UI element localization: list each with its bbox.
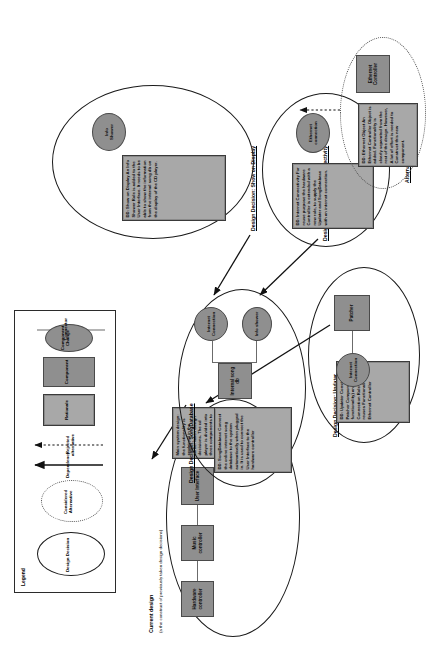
- component-hardware-controller[interactable]: Hardware controller: [181, 581, 214, 617]
- change-info-shower[interactable]: Info Shower: [92, 113, 126, 151]
- change-internet-connection-updater[interactable]: Internet Connection: [336, 353, 370, 387]
- connector-songdb-infoshower: [256, 341, 257, 363]
- legend-title: Legend: [20, 568, 26, 586]
- legend-rationale-label: Rationale: [64, 394, 69, 426]
- connector-music-ui: [197, 505, 198, 525]
- rationale-ethernet-object[interactable]: DD: Ethernet Object An Ethernet Controll…: [358, 103, 418, 167]
- connector-updater: [352, 331, 353, 353]
- legend-design-decision-label: Design Decision: [65, 534, 70, 576]
- change-ethernet-connection[interactable]: Ethernet connection: [296, 113, 330, 153]
- component-ethernet-controller[interactable]: Ethernet Controller: [356, 55, 390, 93]
- component-patcher[interactable]: Patcher: [334, 295, 370, 331]
- component-internal-song-db[interactable]: Internal song db: [218, 363, 252, 399]
- legend-rejected-alternative-label: Rejected alternative: [65, 429, 76, 461]
- page-title: Current design: [148, 595, 154, 633]
- legend-box: Legend Design Decision Considered Altern…: [14, 310, 116, 593]
- rationale-song-database[interactable]: DD: SongDatabase Connect the online inte…: [214, 407, 292, 473]
- rationale-show-on-display[interactable]: DD: Show on Display An Info Shower Role …: [122, 155, 226, 221]
- connector-songdb-internet: [212, 341, 213, 363]
- legend-considered-alternative-label: Considered Alternative: [63, 482, 74, 522]
- change-info-shower-songdb[interactable]: Info shower: [242, 307, 272, 341]
- component-music-controller[interactable]: Music controller: [181, 525, 214, 561]
- legend-design-decision-shape: [37, 532, 105, 576]
- change-internet-connection-songdb[interactable]: Internet Connection: [194, 307, 228, 341]
- connector-hw-music: [197, 561, 198, 581]
- page-subtitle: (a the construct of previously taken des…: [158, 530, 163, 633]
- legend-connector-label: Connector: [63, 320, 68, 340]
- legend-component-label: Component: [64, 357, 69, 387]
